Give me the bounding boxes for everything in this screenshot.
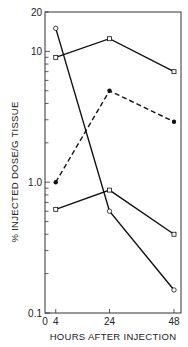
- y-tick-label: 0.1: [28, 308, 42, 319]
- data-point: [107, 209, 111, 213]
- plot-series: [54, 26, 177, 292]
- series-filled-circle: [54, 89, 177, 185]
- data-point: [54, 180, 58, 184]
- data-point: [172, 232, 176, 236]
- series-line: [56, 190, 174, 234]
- chart: 0.11.01020042448 % INJECTED DOSE/G TISSU…: [0, 0, 188, 347]
- plot-axes: 0.11.01020042448: [28, 7, 181, 328]
- y-tick-label: 10: [31, 46, 43, 57]
- data-point: [172, 120, 176, 124]
- series-open-circle: [54, 26, 177, 292]
- data-point: [54, 26, 58, 30]
- data-point: [108, 188, 112, 192]
- series-line: [56, 91, 174, 182]
- data-point: [54, 207, 58, 211]
- series-open-square: [54, 188, 176, 236]
- x-axis-title: HOURS AFTER INJECTION: [50, 331, 177, 342]
- x-tick-label: 0: [42, 316, 48, 327]
- series-open-triangle: [54, 37, 176, 74]
- y-tick-label: 1.0: [28, 177, 42, 188]
- data-point: [108, 37, 112, 41]
- data-point: [107, 89, 111, 93]
- data-point: [54, 55, 58, 59]
- x-tick-label: 48: [168, 316, 180, 327]
- data-point: [172, 70, 176, 74]
- x-tick-label: 4: [53, 316, 59, 327]
- x-tick-label: 24: [104, 316, 116, 327]
- y-axis-title: % INJECTED DOSE/G TISSUE: [9, 101, 20, 242]
- plot-frame: [45, 12, 181, 313]
- y-tick-label: 20: [31, 7, 43, 18]
- data-point: [172, 288, 176, 292]
- series-line: [56, 28, 174, 290]
- series-line: [56, 39, 174, 72]
